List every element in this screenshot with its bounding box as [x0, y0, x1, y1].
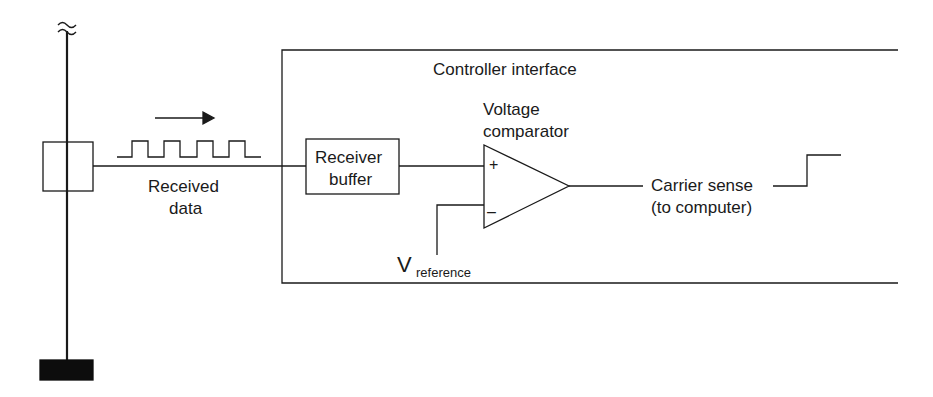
comparator-label-line1: Voltage: [483, 100, 540, 119]
received-data-label-line2: data: [169, 199, 203, 218]
carrier-sense-label-line2: (to computer): [651, 198, 752, 217]
direction-arrow-icon: [155, 112, 214, 124]
bus-cable: [40, 23, 93, 381]
step-waveform-icon: [773, 155, 841, 186]
minus-sign: –: [487, 203, 496, 220]
reference-line: [437, 205, 484, 255]
received-data-label-line1: Received: [148, 177, 219, 196]
reference-voltage-subscript: reference: [416, 265, 471, 280]
reference-voltage-main: V: [397, 252, 412, 277]
receiver-buffer-label-line1: Receiver: [315, 148, 382, 167]
receiver-buffer-label-line2: buffer: [329, 170, 373, 189]
plus-sign: +: [489, 156, 498, 173]
carrier-sense-label-line1: Carrier sense: [651, 176, 753, 195]
comparator-label-line2: comparator: [483, 122, 569, 141]
terminator: [40, 360, 93, 380]
network-receiver-diagram: Controller interface Voltage comparator …: [0, 0, 933, 397]
controller-interface-title: Controller interface: [433, 60, 577, 79]
square-wave-icon: [117, 141, 261, 157]
cable-break-icon: [58, 23, 76, 35]
